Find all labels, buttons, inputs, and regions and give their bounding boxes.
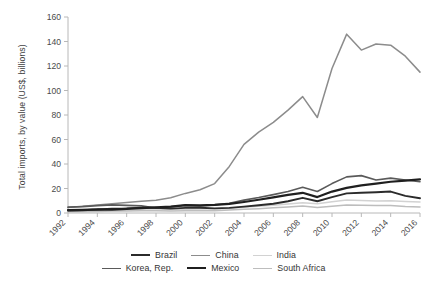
- legend-item-china[interactable]: China: [191, 250, 238, 260]
- y-axis-tick-label: 0: [56, 208, 61, 218]
- x-axis-tick-label: 2000: [164, 217, 185, 238]
- legend-item-mexico[interactable]: Mexico: [187, 263, 239, 273]
- legend-label: Brazil: [155, 250, 177, 260]
- legend-swatch-icon: [253, 268, 272, 269]
- x-axis-tick-label: 2006: [252, 217, 273, 238]
- legend-row-2: Korea, Rep.MexicoSouth Africa: [95, 263, 333, 273]
- x-axis-tick-label: 2012: [340, 217, 361, 238]
- y-axis-tick-label: 80: [51, 110, 61, 120]
- series-line-china: [68, 34, 420, 207]
- x-axis-tick-label: 2016: [399, 217, 420, 238]
- legend-swatch-icon: [102, 268, 121, 269]
- y-axis-tick-label: 60: [51, 135, 61, 145]
- x-axis-tick-label: 2002: [193, 217, 214, 238]
- x-axis-tick-label: 2008: [281, 217, 302, 238]
- x-axis-tick-label: 1994: [76, 217, 97, 238]
- legend-label: China: [215, 250, 238, 260]
- legend-swatch-icon: [191, 255, 210, 256]
- y-axis-tick-label: 100: [47, 86, 62, 96]
- x-axis-tick-label: 2004: [223, 217, 244, 238]
- legend-swatch-icon: [131, 254, 150, 256]
- y-axis-tick-label: 140: [47, 37, 62, 47]
- legend-swatch-icon: [253, 255, 272, 256]
- legend-item-korea-rep[interactable]: Korea, Rep.: [102, 263, 174, 273]
- chart-legend: BrazilChinaIndia Korea, Rep.MexicoSouth …: [0, 250, 427, 273]
- legend-item-india[interactable]: India: [253, 250, 296, 260]
- y-axis-tick-label: 20: [51, 184, 61, 194]
- legend-label: India: [277, 250, 296, 260]
- legend-label: South Africa: [277, 263, 325, 273]
- chart-container: Total imports, by value (US$, billions) …: [0, 0, 427, 292]
- x-axis-tick-label: 1998: [135, 217, 156, 238]
- x-axis-tick-label: 2010: [311, 217, 332, 238]
- x-axis-tick-label: 2014: [369, 217, 390, 238]
- y-axis-tick-label: 120: [47, 61, 62, 71]
- legend-row-1: BrazilChinaIndia: [124, 250, 303, 260]
- x-axis-tick-label: 1992: [47, 217, 68, 238]
- y-axis-tick-label: 40: [51, 159, 61, 169]
- x-axis-tick-label: 1996: [105, 217, 126, 238]
- y-axis-tick-label: 160: [47, 12, 62, 22]
- legend-swatch-icon: [187, 267, 206, 269]
- legend-label: Mexico: [211, 263, 239, 273]
- line-chart-plot: 0204060801001201401601992199419961998200…: [0, 0, 427, 292]
- legend-label: Korea, Rep.: [126, 263, 174, 273]
- legend-item-brazil[interactable]: Brazil: [131, 250, 177, 260]
- legend-item-south-africa[interactable]: South Africa: [253, 263, 325, 273]
